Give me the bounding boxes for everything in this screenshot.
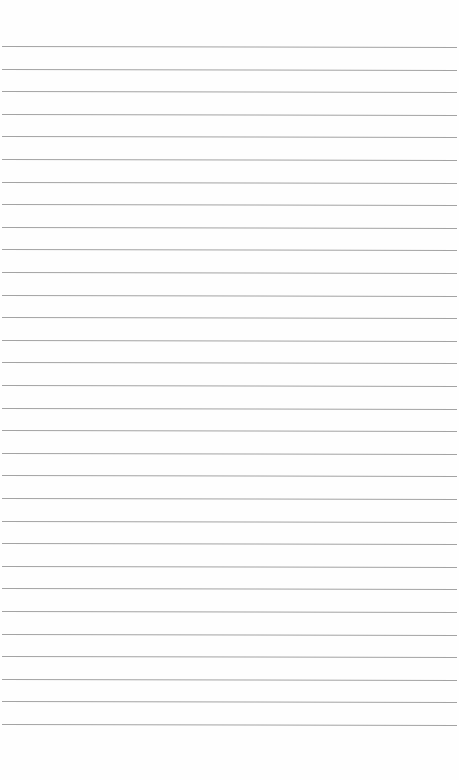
ruled-line — [2, 136, 457, 138]
ruled-line — [2, 362, 457, 364]
ruled-line — [2, 588, 457, 590]
ruled-line — [2, 227, 457, 229]
ruled-line — [2, 475, 457, 477]
ruled-line — [2, 114, 457, 116]
ruled-line — [2, 521, 457, 523]
ruled-line — [2, 91, 457, 93]
ruled-line — [2, 701, 457, 703]
ruled-line — [2, 159, 457, 161]
ruled-line — [2, 46, 457, 48]
ruled-line — [2, 272, 457, 274]
ruled-line — [2, 566, 457, 568]
ruled-line — [2, 430, 457, 432]
ruled-line — [2, 611, 457, 613]
ruled-line — [2, 453, 457, 455]
ruled-line — [2, 543, 457, 545]
ruled-line — [2, 679, 457, 681]
ruled-line — [2, 204, 457, 206]
lined-paper-page — [0, 0, 459, 780]
ruled-line — [2, 249, 457, 251]
ruled-line — [2, 408, 457, 410]
ruled-line — [2, 724, 457, 726]
ruled-line — [2, 656, 457, 658]
ruled-line — [2, 295, 457, 297]
ruled-line — [2, 340, 457, 342]
ruled-line — [2, 182, 457, 184]
ruled-line — [2, 69, 457, 71]
ruled-line — [2, 317, 457, 319]
ruled-line — [2, 385, 457, 387]
ruled-line — [2, 498, 457, 500]
ruled-line — [2, 634, 457, 636]
